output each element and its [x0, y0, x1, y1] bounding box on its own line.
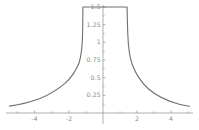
- x-tick-label--2: -2: [61, 116, 77, 122]
- y-tick-label-0.75: 0.75: [86, 57, 101, 63]
- y-tick-label-0.25: 0.25: [86, 92, 101, 98]
- x-tick-label-2: 2: [130, 116, 144, 122]
- y-tick-label-0.5: 0.5: [91, 75, 101, 81]
- x-tick-label--4: -4: [27, 116, 43, 122]
- y-tick-label-1: 1: [97, 39, 101, 45]
- y-tick-label-1.25: 1.25: [86, 22, 101, 28]
- chart-plot-area: [0, 0, 199, 130]
- chart-container: 1.5 1.25 1 0.75 0.5 0.25 -4 -2 2 4: [0, 0, 199, 130]
- y-tick-label-1.5: 1.5: [91, 4, 101, 10]
- x-tick-label-4: 4: [164, 116, 178, 122]
